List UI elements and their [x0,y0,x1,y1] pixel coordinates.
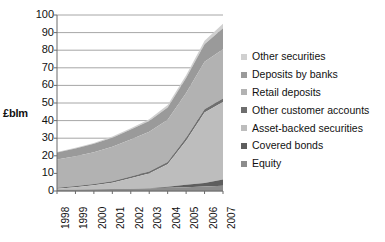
x-axis-tick-label: 2006 [209,207,219,229]
legend-swatch-icon [241,125,247,131]
x-axis-tick-label: 2007 [227,207,237,229]
legend-item[interactable]: Other securities [241,48,385,66]
legend-swatch-icon [241,89,247,95]
legend-item-label: Other securities [252,51,326,62]
legend-item[interactable]: Deposits by banks [241,66,385,84]
x-axis-tick-label: 2001 [116,207,126,229]
legend-item-label: Other customer accounts [252,105,369,116]
legend-item-label: Equity [252,158,281,169]
x-axis-tick-label: 1998 [61,207,71,229]
x-axis-tick-label: 1999 [79,207,89,229]
legend-item-label: Covered bonds [252,140,323,151]
legend-swatch-icon [241,161,247,167]
legend-item[interactable]: Covered bonds [241,137,385,155]
x-axis-tick-label: 2002 [135,207,145,229]
legend-item-label: Retail deposits [252,87,321,98]
x-axis-tick-label: 2004 [172,207,182,229]
legend-swatch-icon [241,143,247,149]
legend-item-label: Asset-backed securities [252,123,363,134]
legend-item[interactable]: Retail deposits [241,84,385,102]
stacked-area-chart: £blm 0102030405060708090100 199819992000… [0,0,385,242]
x-axis-tick-label: 2000 [98,207,108,229]
chart-legend: Other securitiesDeposits by banksRetail … [241,48,385,173]
x-axis-tick-label: 2003 [153,207,163,229]
legend-item[interactable]: Other customer accounts [241,101,385,119]
legend-item[interactable]: Equity [241,155,385,173]
legend-swatch-icon [241,54,247,60]
legend-item[interactable]: Asset-backed securities [241,119,385,137]
legend-item-label: Deposits by banks [252,69,338,80]
legend-swatch-icon [241,107,247,113]
legend-swatch-icon [241,72,247,78]
x-axis-tick-label: 2005 [190,207,200,229]
